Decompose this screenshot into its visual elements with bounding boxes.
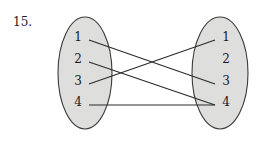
domain-element-label: 3 bbox=[74, 74, 82, 88]
mapping-diagram-canvas: 1 2 3 4 1 2 3 4 bbox=[0, 0, 275, 144]
domain-element-label: 2 bbox=[74, 52, 82, 66]
domain-set-ellipse bbox=[58, 17, 112, 129]
codomain-element-label: 4 bbox=[222, 95, 230, 109]
domain-element-label: 4 bbox=[74, 95, 82, 109]
codomain-element-label: 2 bbox=[222, 52, 230, 66]
codomain-set-ellipse bbox=[192, 17, 248, 129]
mapping-diagram-figure: 15. 1 2 3 4 1 2 3 4 bbox=[0, 0, 275, 144]
domain-element-label: 1 bbox=[74, 30, 82, 44]
codomain-element-label: 1 bbox=[222, 30, 230, 44]
codomain-element-label: 3 bbox=[222, 74, 230, 88]
